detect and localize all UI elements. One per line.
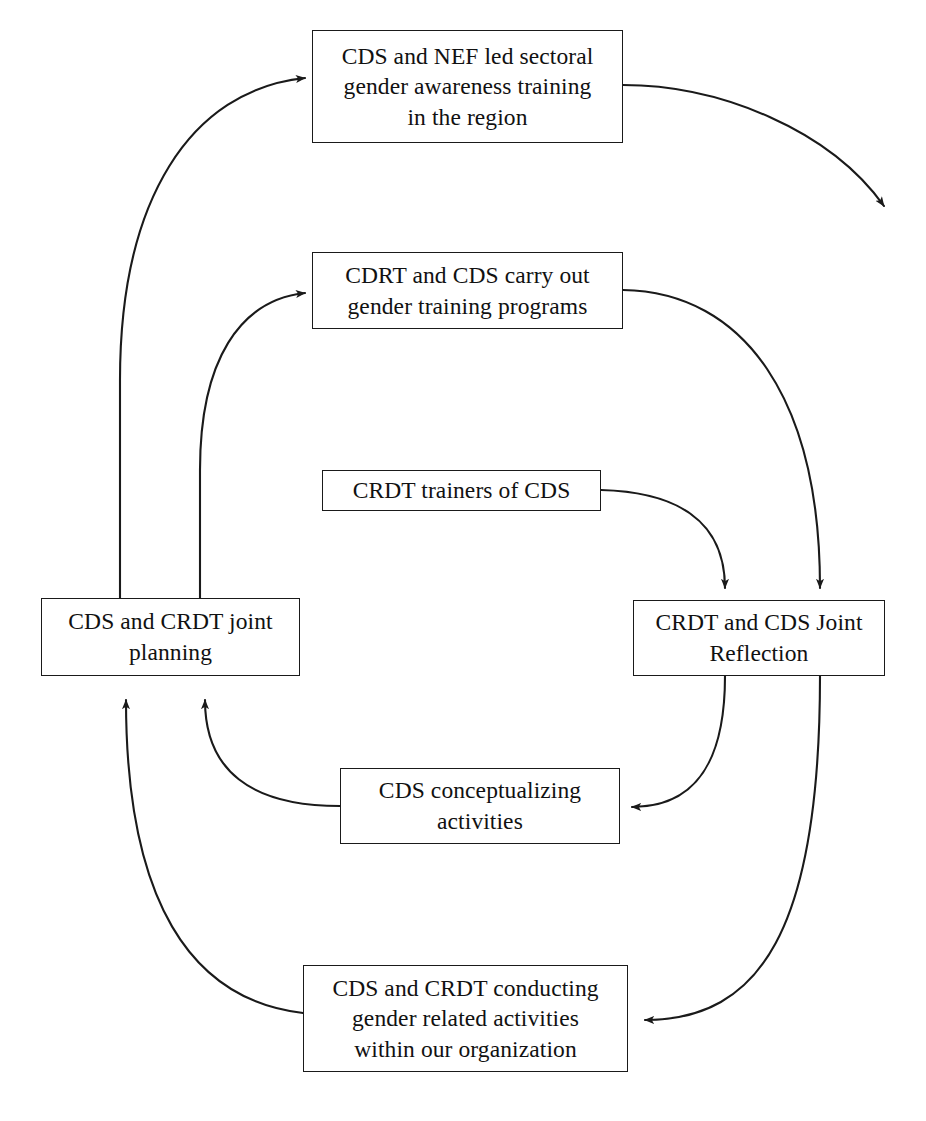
node-label: CRDT and CDS Joint Reflection [655, 607, 862, 668]
edge-planning-to-sectoral-training [120, 78, 305, 598]
edge-sectoral-training-outflow [623, 85, 884, 206]
edge-gender-training-to-reflection [623, 290, 820, 588]
node-label: CDS and CRDT joint planning [68, 606, 272, 667]
edge-reflection-to-conceptualizing [632, 676, 725, 807]
node-label: CDRT and CDS carry out gender training p… [345, 260, 589, 321]
edge-layer [0, 0, 926, 1121]
diagram-canvas: CDS and NEF led sectoral gender awarenes… [0, 0, 926, 1121]
node-label: CDS and CRDT conducting gender related a… [332, 973, 598, 1065]
node-crdt-trainers[interactable]: CRDT trainers of CDS [322, 470, 601, 511]
edge-planning-to-gender-training [200, 293, 305, 598]
node-label: CDS and NEF led sectoral gender awarenes… [342, 41, 594, 133]
node-conducting-activities[interactable]: CDS and CRDT conducting gender related a… [303, 965, 628, 1072]
node-label: CDS conceptualizing activities [379, 775, 581, 836]
node-label: CRDT trainers of CDS [353, 475, 571, 506]
node-gender-training-programs[interactable]: CDRT and CDS carry out gender training p… [312, 252, 623, 329]
node-joint-reflection[interactable]: CRDT and CDS Joint Reflection [633, 600, 885, 676]
node-conceptualizing[interactable]: CDS conceptualizing activities [340, 768, 620, 844]
node-sectoral-training[interactable]: CDS and NEF led sectoral gender awarenes… [312, 30, 623, 143]
edge-reflection-to-conducting [645, 676, 820, 1020]
node-joint-planning[interactable]: CDS and CRDT joint planning [41, 598, 300, 676]
edge-conceptualizing-to-planning [205, 700, 340, 806]
edge-trainers-to-reflection [601, 490, 725, 588]
